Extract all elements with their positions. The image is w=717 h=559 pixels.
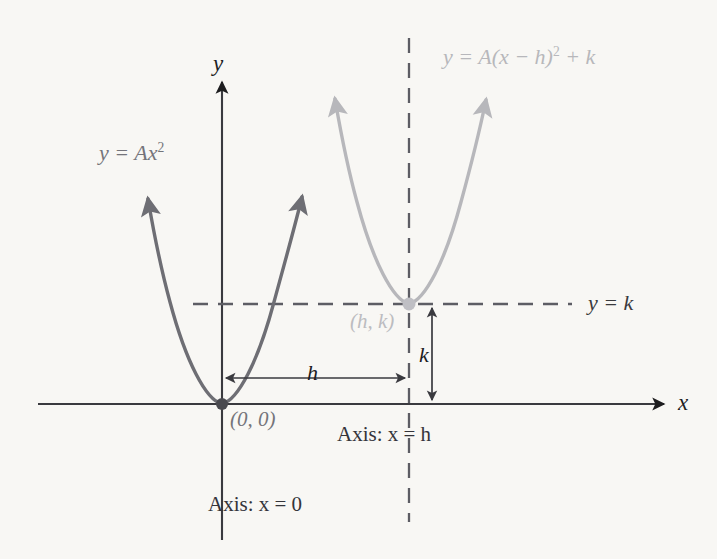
base-parabola-vertex-dot [216,398,228,410]
shifted-curve-exponent: 2 [553,44,560,59]
vertex-hk-label: (h, k) [350,311,394,332]
shifted-parabola-group [335,99,486,311]
y-axis-label: y [213,52,223,75]
horizontal-guide-label: y = k [588,292,633,314]
shifted-parabola-right-branch [409,100,486,304]
guide-line-group [193,38,572,522]
y-axis-equation-label: Axis: x = 0 [208,494,302,515]
vertical-axis-equation-label: Axis: x = h [337,424,431,445]
shifted-curve-equation-text-part1: y = A(x − h) [443,44,553,69]
shifted-parabola-vertex-dot [403,298,416,311]
shifted-parabola-left-branch [335,99,409,304]
base-parabola-left-branch [148,199,222,404]
base-curve-equation-label: y = Ax2 [99,141,164,164]
x-axis-label: x [678,391,688,414]
vertical-shift-label: k [419,344,429,366]
parabola-translation-figure: y x y = Ax2 y = A(x − h)2 + k (0, 0) (h,… [0,0,717,559]
origin-point-label: (0, 0) [230,409,276,430]
base-parabola-right-branch [222,197,302,404]
base-curve-equation-text: y = Ax [99,140,157,165]
shifted-curve-equation-text-part2: + k [560,44,596,69]
base-curve-exponent: 2 [157,140,164,155]
shifted-curve-equation-label: y = A(x − h)2 + k [443,45,595,68]
horizontal-shift-label: h [307,362,318,384]
figure-canvas [0,0,717,559]
